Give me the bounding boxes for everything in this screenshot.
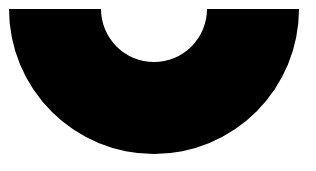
half-annulus-shape <box>0 0 316 171</box>
